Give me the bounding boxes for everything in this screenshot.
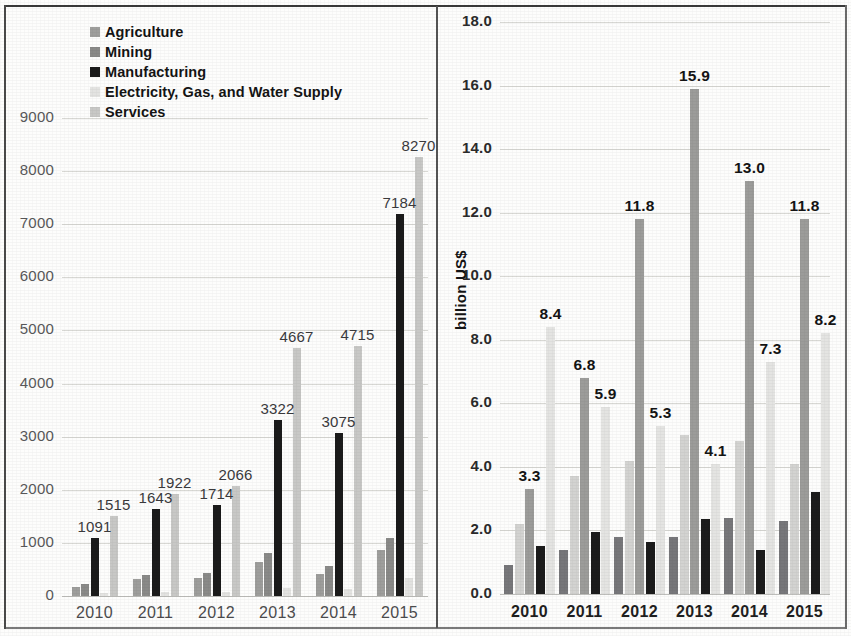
bar-services-2014 [354, 346, 362, 596]
data-label: 15.9 [665, 67, 725, 85]
legend-swatch-icon [90, 47, 100, 57]
bar-manufacturing-2015 [800, 219, 809, 594]
bar-mining-2012 [625, 461, 634, 594]
y-axis-tick-label: 5000 [14, 320, 54, 337]
data-label: 3075 [309, 413, 369, 430]
gridline [500, 594, 830, 595]
bar-agriculture-2012 [194, 578, 202, 596]
data-label: 5.9 [576, 385, 636, 403]
figure-root: 0100020003000400050006000700080009000109… [0, 0, 851, 636]
bar-electricity-gas-and-water-supply-2015 [811, 492, 820, 594]
bar-services-2013 [293, 348, 301, 596]
bar-agriculture-2013 [255, 562, 263, 596]
bar-manufacturing-2014 [745, 181, 754, 594]
bar-services-2012 [656, 426, 665, 594]
bar-manufacturing-2015 [396, 214, 404, 596]
y-axis-tick-label: 14.0 [448, 139, 492, 156]
bar-mining-2013 [264, 553, 272, 596]
bar-services-2014 [766, 362, 775, 594]
data-label: 8.4 [521, 305, 581, 323]
data-label: 8.2 [796, 311, 851, 329]
bar-mining-2015 [386, 538, 394, 596]
bar-electricity-gas-and-water-supply-2012 [646, 542, 655, 594]
data-label: 7184 [370, 194, 430, 211]
y-axis-tick-label: 8000 [14, 161, 54, 178]
y-axis-tick-label: 0.0 [448, 584, 492, 601]
bar-services-2012 [232, 486, 240, 596]
bar-agriculture-2015 [779, 521, 788, 594]
gridline [500, 149, 830, 150]
right-chart-panel: 0.02.04.06.08.010.012.014.016.018.03.38.… [438, 0, 847, 636]
data-label: 3322 [248, 400, 308, 417]
bar-electricity-gas-and-water-supply-2014 [756, 550, 765, 594]
bar-agriculture-2012 [614, 537, 623, 594]
legend-swatch-icon [90, 27, 100, 37]
data-label: 7.3 [741, 340, 801, 358]
x-axis-tick-label: 2014 [304, 604, 374, 622]
data-label: 1091 [65, 518, 125, 535]
bar-services-2011 [601, 407, 610, 594]
bar-agriculture-2014 [316, 574, 324, 596]
legend-label: Agriculture [105, 24, 183, 40]
bar-mining-2011 [570, 476, 579, 594]
data-label: 1714 [187, 485, 247, 502]
y-axis-tick-label: 2.0 [448, 520, 492, 537]
bar-manufacturing-2013 [690, 89, 699, 594]
gridline [62, 596, 428, 597]
bar-electricity-gas-and-water-supply-2013 [701, 519, 710, 594]
gridline [62, 224, 428, 225]
bar-mining-2010 [81, 584, 89, 596]
y-axis-tick-label: 9000 [14, 108, 54, 125]
left-chart-legend: AgricultureMiningManufacturingElectricit… [90, 23, 342, 123]
bar-agriculture-2014 [724, 518, 733, 594]
legend-label: Electricity, Gas, and Water Supply [105, 84, 342, 100]
legend-swatch-icon [90, 67, 100, 77]
gridline [500, 22, 830, 23]
data-label: 2066 [206, 466, 266, 483]
x-axis-tick-label: 2015 [770, 603, 840, 621]
y-axis-tick-label: 4.0 [448, 457, 492, 474]
bar-electricity-gas-and-water-supply-2011 [161, 592, 169, 596]
data-label: 4667 [267, 328, 327, 345]
bar-services-2013 [711, 464, 720, 594]
data-label: 13.0 [720, 159, 780, 177]
data-label: 4715 [328, 326, 388, 343]
bar-agriculture-2010 [504, 565, 513, 594]
bar-mining-2014 [735, 441, 744, 594]
bar-mining-2012 [203, 573, 211, 596]
bar-agriculture-2010 [72, 587, 80, 596]
y-axis-tick-label: 4000 [14, 374, 54, 391]
bar-manufacturing-2013 [274, 420, 282, 596]
y-axis-tick-label: 0 [14, 586, 54, 603]
legend-swatch-icon [90, 107, 100, 117]
data-label: 11.8 [775, 197, 835, 215]
bar-manufacturing-2010 [91, 538, 99, 596]
bar-manufacturing-2011 [580, 378, 589, 594]
bar-electricity-gas-and-water-supply-2010 [100, 593, 108, 596]
bar-electricity-gas-and-water-supply-2014 [344, 589, 352, 596]
bar-electricity-gas-and-water-supply-2011 [591, 532, 600, 594]
legend-item: Electricity, Gas, and Water Supply [90, 83, 342, 100]
y-axis-tick-label: 8.0 [448, 330, 492, 347]
bar-manufacturing-2011 [152, 509, 160, 596]
y-axis-tick-label: 3000 [14, 427, 54, 444]
gridline [62, 384, 428, 385]
gridline [62, 437, 428, 438]
y-axis-tick-label: 6.0 [448, 393, 492, 410]
bar-manufacturing-2010 [525, 489, 534, 594]
bar-electricity-gas-and-water-supply-2010 [536, 546, 545, 594]
x-axis-tick-label: 2013 [243, 604, 313, 622]
gridline [500, 276, 830, 277]
bar-manufacturing-2014 [335, 433, 343, 596]
bar-services-2015 [415, 157, 423, 596]
bar-agriculture-2011 [133, 579, 141, 596]
y-axis-tick-label: 18.0 [448, 12, 492, 29]
right-y-axis-label: billion US$ [452, 250, 469, 330]
gridline [62, 277, 428, 278]
bar-mining-2014 [325, 566, 333, 596]
y-axis-tick-label: 12.0 [448, 203, 492, 220]
x-axis-tick-label: 2011 [121, 604, 191, 622]
bar-mining-2011 [142, 575, 150, 596]
data-label: 6.8 [555, 356, 615, 374]
bar-electricity-gas-and-water-supply-2015 [405, 578, 413, 596]
